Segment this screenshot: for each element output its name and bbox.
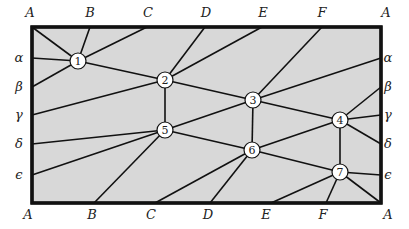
top-edge-label: B [84, 5, 95, 20]
top-edge-label: E [257, 5, 268, 20]
node-label: 7 [337, 166, 344, 179]
node-6: 6 [244, 142, 260, 158]
right-edge-label: δ [384, 136, 392, 151]
node-3: 3 [245, 92, 261, 108]
node-4: 4 [332, 112, 348, 128]
node-5: 5 [157, 122, 173, 138]
bottom-edge-label: A [22, 207, 32, 222]
right-edge-label: α [384, 50, 393, 65]
left-edge-label: α [15, 50, 24, 65]
left-edge-label: γ [15, 107, 23, 122]
node-1: 1 [70, 53, 86, 69]
node-label: 5 [162, 124, 169, 137]
left-edge-label: δ [15, 136, 23, 151]
graph-diagram: 1234567 ABCDEFAABCDEFAαβγδϵαβγδϵ [0, 0, 409, 229]
bottom-edge-label: C [146, 207, 156, 222]
node-label: 3 [250, 94, 257, 107]
bottom-edge-label: A [382, 207, 392, 222]
node-label: 2 [162, 74, 169, 87]
node-label: 4 [337, 114, 344, 127]
bottom-edge-label: E [260, 207, 271, 222]
node-label: 1 [75, 55, 82, 68]
top-edge-label: A [380, 5, 390, 20]
left-edge-label: β [14, 79, 23, 94]
top-edge-label: D [200, 5, 212, 20]
right-edge-label: ϵ [384, 167, 392, 182]
bottom-edge-label: F [317, 207, 328, 222]
node-7: 7 [332, 164, 348, 180]
top-edge-label: A [24, 5, 34, 20]
node-label: 6 [249, 144, 256, 157]
right-edge-label: γ [384, 107, 392, 122]
right-edge-label: β [383, 79, 392, 94]
top-edge-label: F [316, 5, 327, 20]
bottom-edge-label: D [202, 207, 214, 222]
bottom-edge-label: B [86, 207, 97, 222]
node-2: 2 [157, 72, 173, 88]
left-edge-label: ϵ [15, 167, 23, 182]
top-edge-label: C [143, 5, 153, 20]
